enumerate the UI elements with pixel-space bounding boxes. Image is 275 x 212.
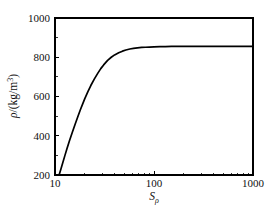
y-tick-label: 800 bbox=[34, 51, 51, 63]
y-tick-label: 600 bbox=[34, 90, 51, 102]
x-tick-label: 1000 bbox=[242, 177, 265, 189]
x-tick-label: 10 bbox=[50, 177, 62, 189]
x-tick-label: 100 bbox=[146, 177, 163, 189]
y-tick-label: 400 bbox=[34, 130, 51, 142]
y-tick-label: 200 bbox=[34, 169, 51, 181]
density-vs-srho-chart: 2004006008001000 101001000 ρ/(kg/m3) Sρ bbox=[0, 0, 275, 212]
figure-container: 2004006008001000 101001000 ρ/(kg/m3) Sρ bbox=[0, 0, 275, 212]
y-tick-label: 1000 bbox=[28, 12, 51, 24]
